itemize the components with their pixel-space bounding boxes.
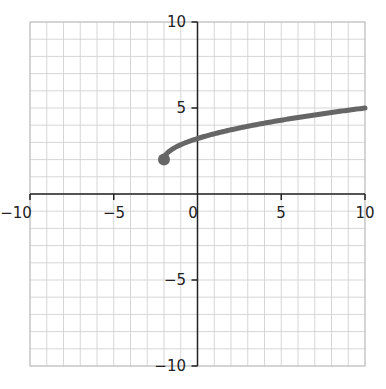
function-graph: −10 −5 0 5 10 10 5 −5 −10 [0, 0, 386, 389]
y-tick-label: −5 [164, 271, 186, 289]
x-tick-label: −5 [103, 204, 125, 222]
y-tick-label: 10 [167, 13, 186, 31]
y-tick-label: −10 [154, 357, 186, 375]
start-point-marker [158, 154, 170, 166]
x-tick-label: 0 [188, 204, 198, 222]
x-tick-label: 5 [276, 204, 286, 222]
x-tick-label: −10 [0, 204, 32, 222]
x-tick-label: 10 [355, 204, 374, 222]
y-tick-label: 5 [176, 99, 186, 117]
